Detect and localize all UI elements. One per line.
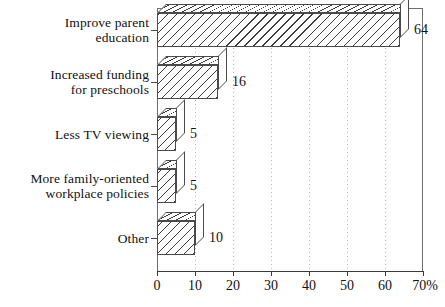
gridline-40 bbox=[309, 8, 310, 271]
x-tick-label-40: 40 bbox=[302, 278, 316, 294]
x-tick-label-50: 50 bbox=[340, 278, 354, 294]
x-tick-label-10: 10 bbox=[188, 278, 202, 294]
bar-front-face-1 bbox=[157, 65, 218, 99]
x-tick-50 bbox=[347, 271, 348, 276]
bar-value-label-4: 10 bbox=[209, 230, 223, 246]
x-tick-60 bbox=[385, 271, 386, 276]
bar-value-label-1: 16 bbox=[232, 74, 246, 90]
bar-front-face-2 bbox=[157, 117, 176, 151]
x-tick-10 bbox=[195, 271, 196, 276]
x-tick-label-60: 60 bbox=[378, 278, 392, 294]
category-label-2: Less TV viewing bbox=[55, 127, 149, 142]
x-tick-30 bbox=[271, 271, 272, 276]
bar-front-face-0 bbox=[157, 13, 400, 47]
x-tick-label-30: 30 bbox=[264, 278, 278, 294]
bar-top-face-1 bbox=[157, 56, 227, 65]
category-label-0: Improve parent education bbox=[65, 15, 149, 45]
bar-value-label-0: 64 bbox=[414, 22, 428, 38]
gridline-50 bbox=[347, 8, 348, 271]
x-tick-label-70: 70% bbox=[412, 278, 438, 294]
x-tick-20 bbox=[233, 271, 234, 276]
category-label-4: Other bbox=[118, 231, 149, 246]
value-axis-line bbox=[157, 271, 424, 272]
x-tick-0 bbox=[157, 271, 158, 276]
category-label-3: More family-oriented workplace policies bbox=[30, 171, 149, 201]
category-label-1: Increased funding for preschools bbox=[50, 67, 149, 97]
gridline-30 bbox=[271, 8, 272, 271]
x-tick-40 bbox=[309, 271, 310, 276]
bar-chart: 64165510 Improve parent educationIncreas… bbox=[0, 0, 445, 307]
bar-value-label-2: 5 bbox=[190, 126, 197, 142]
gridline-20 bbox=[233, 8, 234, 271]
bar-value-label-3: 5 bbox=[190, 178, 197, 194]
x-tick-label-0: 0 bbox=[154, 278, 161, 294]
x-tick-label-20: 20 bbox=[226, 278, 240, 294]
gridline-60 bbox=[385, 8, 386, 271]
bar-front-face-3 bbox=[157, 169, 176, 203]
bar-top-face-0 bbox=[157, 4, 409, 13]
bar-front-face-4 bbox=[157, 221, 195, 255]
x-tick-70 bbox=[423, 271, 424, 276]
